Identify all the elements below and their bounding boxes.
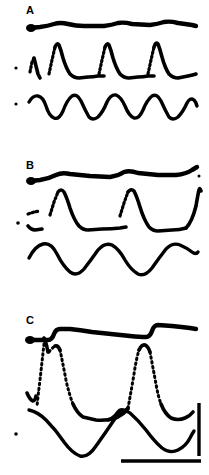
panel-a: A [14,4,197,119]
panel-c: C [14,314,196,456]
panel-b-mid-peak-1 [58,190,126,230]
panel-a-top-flat-trace [30,22,196,28]
figure-root: A B [0,0,209,475]
panel-label-c: C [26,314,34,326]
scale-bars [121,403,201,461]
panel-c-mid-peak-2 [139,345,150,352]
panel-c-mid-trough-2 [161,404,193,420]
panel-b-mid-peak-3-rise [186,189,201,228]
panel-a-mid-peak-3 [154,43,196,78]
waveform-figure: A B [0,0,209,475]
panel-b-mid-lead [28,226,42,230]
panel-a-baseline-dot-mid [14,66,17,69]
panel-a-bottom-sine-trace [29,95,197,119]
panel-label-b: B [26,159,34,171]
panel-a-baseline-dot-bottom [14,102,17,105]
panel-c-baseline-dot-bottom [14,432,18,436]
panel-a-mid-spike-rise-4 [148,47,154,74]
panel-label-a: A [26,4,34,16]
panel-c-left-tick-mark [27,393,36,401]
panel-c-top-flat-trace [28,325,196,340]
panel-c-mid-peak-2-fall [150,352,161,404]
panel-b-top-end-dot [198,175,201,178]
panel-b-baseline-dot-mid [16,221,20,225]
panel-b-mid-peak-2 [128,190,186,231]
panel-a-mid-spike-rise-3 [99,47,105,74]
panel-b: B [16,159,201,275]
panel-b-top-flat-trace [30,167,197,181]
panel-b-mid-spike-rise-1 [50,192,58,215]
panel-c-mid-peak-1-fall [60,350,73,404]
panel-a-mid-spike-rise-2 [49,47,55,74]
panel-c-mid-fall-1 [37,344,44,406]
panel-b-mid-spike-rise-2 [120,192,128,216]
panel-a-mid-peak-1 [55,44,104,78]
panel-a-mid-spike-trace [34,58,40,78]
panel-c-mid-rise-2 [128,350,139,408]
panel-b-mid-lead-dots [28,211,40,214]
panel-b-bottom-sine-trace [29,244,198,275]
